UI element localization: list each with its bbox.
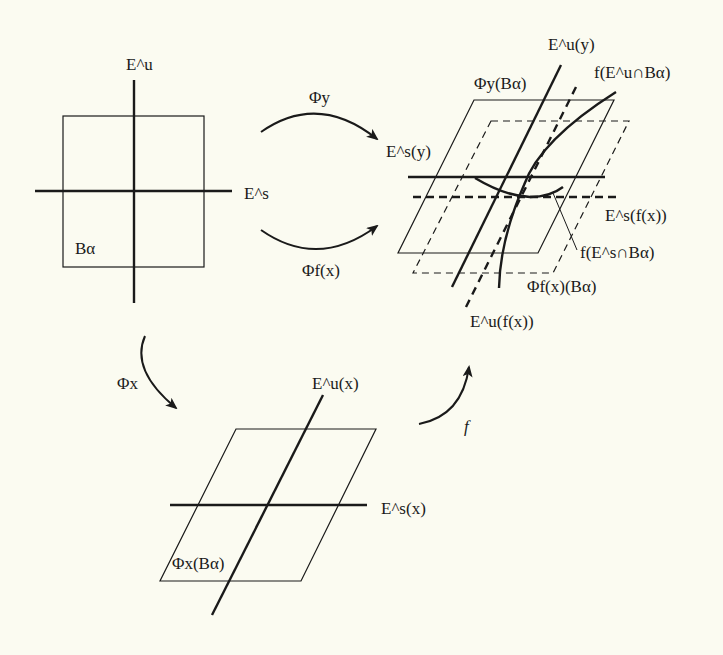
label-f-es-cap-b: f(E^s∩Bα): [580, 244, 654, 261]
bottom-panel: [160, 395, 376, 615]
label-phi-x-text: Φx: [117, 374, 138, 393]
label-phi-y: Φy: [309, 89, 330, 106]
label-eu-fx-text: E^u(f(x)): [470, 312, 534, 331]
label-phi-x-b-text: Φx(Bα): [172, 554, 225, 573]
label-eu-x: E^u(x): [312, 375, 359, 392]
label-es-y-text: E^s(y): [386, 142, 431, 161]
arrow-phi-x: [141, 336, 176, 408]
diagram-canvas: E^u E^s Bα Φy Φf(x) Φx f E^u(y) f(E^u∩Bα…: [0, 0, 723, 655]
arrow-f: [419, 367, 469, 424]
label-es-x: E^s(x): [381, 500, 426, 517]
label-f: f: [464, 418, 469, 435]
arrow-phi-y: [261, 114, 377, 139]
label-es: E^s: [244, 185, 269, 202]
label-phi-fx-text: Φf(x): [302, 261, 340, 280]
label-phi-x: Φx: [117, 375, 138, 392]
label-phi-y-b-text: Φy(Bα): [474, 74, 527, 93]
label-phi-x-b: Φx(Bα): [172, 555, 225, 572]
label-f-text: f: [464, 417, 469, 436]
label-f-eu-cap-b-text: f(E^u∩Bα): [594, 63, 670, 82]
label-f-eu-cap-b: f(E^u∩Bα): [594, 64, 670, 81]
label-es-text: E^s: [244, 184, 269, 203]
leader-f-es-cap-b: [553, 193, 577, 250]
top-right-panel: [398, 65, 629, 307]
label-eu-y-text: E^u(y): [548, 35, 595, 54]
label-es-fx-text: E^s(f(x)): [605, 206, 667, 225]
label-eu-fx: E^u(f(x)): [470, 313, 534, 330]
label-phi-y-text: Φy: [309, 88, 330, 107]
label-b-alpha: Bα: [75, 240, 95, 257]
label-phi-y-b: Φy(Bα): [474, 75, 527, 92]
label-es-y: E^s(y): [386, 143, 431, 160]
label-eu: E^u: [126, 56, 153, 73]
label-b-alpha-text: Bα: [75, 239, 95, 258]
label-eu-text: E^u: [126, 55, 153, 74]
label-es-x-text: E^s(x): [381, 499, 426, 518]
label-es-fx: E^s(f(x)): [605, 207, 667, 224]
label-phi-fx: Φf(x): [302, 262, 340, 279]
diagram-graphics: [0, 0, 723, 655]
label-eu-y: E^u(y): [548, 36, 595, 53]
arrow-phi-fx: [261, 226, 377, 249]
label-eu-x-text: E^u(x): [312, 374, 359, 393]
label-phi-fx-b: Φf(x)(Bα): [527, 278, 596, 295]
label-phi-fx-b-text: Φf(x)(Bα): [527, 277, 596, 296]
label-f-es-cap-b-text: f(E^s∩Bα): [580, 243, 654, 262]
top-left-panel: [35, 80, 232, 303]
